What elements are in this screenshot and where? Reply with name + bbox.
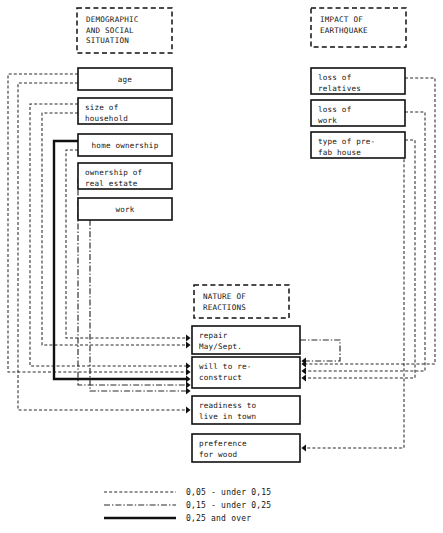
node-loss-of-relatives[interactable]: loss ofrelatives	[311, 68, 405, 94]
node-label-ownership-of-real-estate-line-1: real estate	[85, 179, 138, 188]
arrowhead-preference-for-wood-11	[301, 445, 306, 452]
group-title-reactions: NATURE OFREACTIONS	[194, 285, 289, 318]
node-label-home-ownership: home ownership	[92, 141, 159, 150]
node-label-readiness-to-live-in-town-line-0: readiness to	[199, 401, 256, 410]
node-label-readiness-to-live-in-town-line-1: live in town	[199, 412, 256, 421]
node-ownership-of-real-estate[interactable]: ownership ofreal estate	[78, 163, 172, 189]
arrowhead-will-to-reconstruct-6	[186, 382, 191, 389]
edge-age-to-readiness-to-live-in-town	[18, 83, 186, 410]
edge-type-of-prefab-house-to-preference-for-wood	[306, 150, 405, 448]
node-repair-may-sept[interactable]: repairMay/Sept.	[192, 326, 300, 354]
node-work[interactable]: work	[78, 198, 172, 220]
node-preference-for-wood[interactable]: preferencefor wood	[192, 434, 300, 462]
node-label-type-of-prefab-house-line-0: type of pre-	[318, 137, 375, 146]
group-title-reactions-text-line-1: REACTIONS	[203, 303, 246, 312]
node-label-size-of-household-line-0: size of	[85, 103, 118, 112]
arrowhead-repair-may-sept-3	[186, 342, 191, 349]
arrowhead-readiness-to-live-in-town-1	[186, 407, 191, 414]
group-title-demographic-text-line-2: SITUATION	[86, 36, 129, 45]
node-size-of-household[interactable]: size ofhousehold	[78, 98, 172, 124]
node-label-work: work	[115, 205, 134, 214]
arrowhead-will-to-reconstruct-0	[186, 369, 191, 376]
node-label-age: age	[118, 75, 133, 84]
node-label-preference-for-wood-line-0: preference	[199, 439, 247, 448]
legend: 0,05 - under 0,150,15 - under 0,250,25 a…	[104, 488, 271, 523]
arrowhead-will-to-reconstruct-9	[301, 368, 306, 375]
edge-layer	[8, 74, 435, 448]
group-title-impact-text-line-0: IMPACT OF	[320, 15, 363, 24]
group-title-demographic-text-line-1: AND SOCIAL	[86, 26, 134, 35]
group-title-border-reactions	[194, 285, 289, 318]
node-label-repair-may-sept-line-0: repair	[199, 331, 228, 340]
node-label-loss-of-relatives-line-0: loss of	[318, 73, 351, 82]
arrowhead-repair-may-sept-5	[186, 335, 191, 342]
group-title-demographic: DEMOGRAPHICAND SOCIALSITUATION	[77, 8, 172, 53]
node-home-ownership[interactable]: home ownership	[78, 134, 172, 156]
arrowhead-will-to-reconstruct-10	[301, 375, 306, 382]
node-label-repair-may-sept-line-1: May/Sept.	[199, 342, 242, 351]
edge-work-to-will-to-reconstruct	[78, 209, 186, 391]
group-title-impact-text-line-1: EARTHQUAKE	[320, 26, 368, 35]
arrowhead-will-to-reconstruct-7	[186, 388, 191, 395]
group-title-demographic-text-line-0: DEMOGRAPHIC	[86, 15, 139, 24]
path-diagram: DEMOGRAPHICAND SOCIALSITUATIONIMPACT OFE…	[0, 0, 443, 533]
node-label-type-of-prefab-house-line-1: fab house	[318, 148, 361, 157]
arrowhead-will-to-reconstruct-2	[186, 363, 191, 370]
node-readiness-to-live-in-town[interactable]: readiness tolive in town	[192, 396, 300, 424]
node-label-will-to-reconstruct-line-0: will to re-	[199, 362, 252, 371]
edge-type-of-prefab-house-to-will-to-reconstruct	[306, 140, 415, 378]
right-node-layer: loss ofrelativesloss ofworktype of pre-f…	[311, 68, 405, 158]
group-title-reactions-text-line-0: NATURE OF	[203, 292, 246, 301]
legend-label-weak: 0,05 - under 0,15	[186, 488, 271, 497]
node-label-loss-of-work-line-1: work	[318, 116, 337, 125]
node-label-ownership-of-real-estate-line-0: ownership of	[85, 168, 142, 177]
node-label-will-to-reconstruct-line-1: construct	[199, 373, 242, 382]
group-title-impact: IMPACT OFEARTHQUAKE	[311, 8, 406, 47]
node-label-size-of-household-line-1: household	[85, 114, 128, 123]
left-node-layer: agesize ofhouseholdhome ownershipownersh…	[78, 68, 172, 220]
node-will-to-reconstruct[interactable]: will to re-construct	[192, 357, 300, 388]
node-loss-of-work[interactable]: loss ofwork	[311, 100, 405, 126]
node-age[interactable]: age	[78, 68, 172, 90]
legend-label-mid: 0,15 - under 0,25	[186, 501, 271, 510]
node-label-preference-for-wood-line-1: for wood	[199, 450, 237, 459]
figure-canvas: DEMOGRAPHICAND SOCIALSITUATIONIMPACT OFE…	[0, 0, 443, 533]
legend-label-strong: 0,25 and over	[186, 514, 251, 523]
node-label-loss-of-work-line-0: loss of	[318, 105, 351, 114]
node-type-of-prefab-house[interactable]: type of pre-fab house	[311, 132, 405, 158]
node-label-loss-of-relatives-line-1: relatives	[318, 84, 361, 93]
arrowhead-will-to-reconstruct-4	[186, 376, 191, 383]
center-node-layer: repairMay/Sept.will to re-constructreadi…	[192, 326, 300, 462]
